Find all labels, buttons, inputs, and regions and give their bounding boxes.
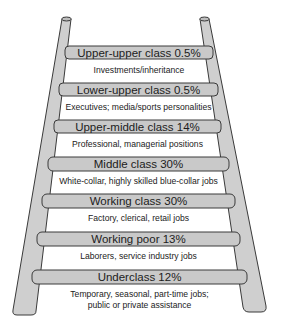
description-underclass-line2: public or private assistance <box>32 300 247 311</box>
social-class-ladder-diagram: Upper-upper class 0.5% Investments/inher… <box>0 0 284 324</box>
rung-label-working-class: Working class 30% <box>42 194 235 208</box>
description-upper-middle: Professional, managerial positions <box>54 139 221 150</box>
description-middle: White-collar, highly skilled blue-collar… <box>48 176 229 187</box>
rung-label-lower-upper: Lower-upper class 0.5% <box>59 83 218 97</box>
rung-label-upper-middle: Upper-middle class 14% <box>54 120 221 134</box>
rung-label-middle: Middle class 30% <box>48 157 229 171</box>
description-upper-upper: Investments/inheritance <box>65 65 213 76</box>
rung-label-underclass: Underclass 12% <box>32 270 247 284</box>
description-working-class: Factory, clerical, retail jobs <box>42 213 235 224</box>
description-working-poor: Laborers, service industry jobs <box>37 251 240 262</box>
rung-label-upper-upper: Upper-upper class 0.5% <box>65 46 213 60</box>
rung-label-working-poor: Working poor 13% <box>37 232 240 246</box>
description-underclass-line1: Temporary, seasonal, part-time jobs; <box>32 289 247 300</box>
description-lower-upper: Executives; media/sports personalities <box>59 102 218 113</box>
